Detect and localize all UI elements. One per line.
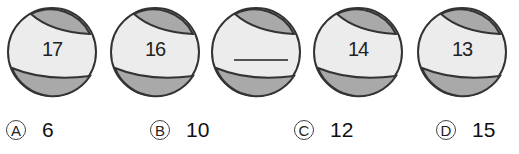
option-value: 10 xyxy=(186,118,209,142)
option-c[interactable]: C 12 xyxy=(294,117,353,143)
ball-1: 17 xyxy=(6,4,98,100)
option-letter-circle: D xyxy=(436,120,456,140)
option-d[interactable]: D 15 xyxy=(436,117,495,143)
ball-icon xyxy=(210,4,302,100)
option-value: 6 xyxy=(42,118,54,142)
option-letter-circle: C xyxy=(294,120,314,140)
ball-number: 16 xyxy=(109,38,201,61)
ball-2: 16 xyxy=(109,4,201,100)
option-value: 12 xyxy=(330,118,353,142)
ball-5: 13 xyxy=(416,4,508,100)
option-letter-circle: B xyxy=(150,120,170,140)
option-value: 15 xyxy=(472,118,495,142)
ball-number: 13 xyxy=(416,38,508,61)
option-letter-circle: A xyxy=(6,120,26,140)
option-b[interactable]: B 10 xyxy=(150,117,209,143)
ball-number: 17 xyxy=(6,38,98,61)
option-a[interactable]: A 6 xyxy=(6,117,54,143)
ball-3-blank xyxy=(210,4,302,100)
ball-number: 14 xyxy=(312,38,404,61)
ball-4: 14 xyxy=(312,4,404,100)
